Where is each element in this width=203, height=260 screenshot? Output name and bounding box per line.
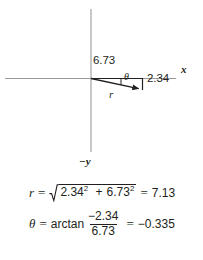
theta-symbol-label: θ	[124, 71, 129, 82]
angle-equals: =	[39, 216, 46, 232]
magnitude-lhs: r	[29, 185, 34, 201]
vector-diagram: x −y 6.73 2.34 θ r	[0, 0, 203, 178]
radicand-term-b-exponent: 2	[130, 184, 134, 193]
angle-equation: θ = arctan −2.34 6.73 = −0.335	[29, 210, 175, 239]
diagram-canvas	[0, 0, 203, 178]
radicand-term-b: 6.73	[107, 185, 130, 199]
magnitude-equation: r = 2.342 +6.732 = 7.13	[29, 184, 175, 202]
magnitude-equals-2: =	[140, 185, 147, 201]
angle-lhs: θ	[29, 216, 35, 232]
x-axis-label: x	[181, 63, 187, 75]
arctan-function: arctan	[51, 217, 84, 231]
radicand-plus: +	[96, 185, 103, 199]
magnitude-result: 7.13	[152, 186, 175, 200]
y-component-value-label: 2.34	[147, 72, 169, 84]
square-root-expression: 2.342 +6.732	[49, 184, 136, 202]
arctan-fraction: −2.34 6.73	[86, 210, 120, 239]
fraction-denominator: 6.73	[90, 224, 117, 239]
radicand: 2.342 +6.732	[59, 184, 136, 199]
radicand-term-a-exponent: 2	[84, 184, 88, 193]
fraction-numerator: −2.34	[86, 210, 120, 224]
magnitude-equals: =	[38, 185, 45, 201]
r-symbol-label: r	[109, 88, 113, 100]
radicand-term-a: 2.34	[60, 185, 83, 199]
resultant-vector-arrow	[91, 79, 139, 89]
equation-block: r = 2.342 +6.732 = 7.13 θ = arctan −2.34…	[0, 178, 203, 260]
negative-y-axis-label: −y	[79, 155, 91, 167]
radical-sign-icon	[49, 184, 59, 202]
x-component-value-label: 6.73	[93, 54, 115, 66]
angle-equals-2: =	[126, 216, 133, 232]
angle-result: −0.335	[138, 217, 175, 231]
